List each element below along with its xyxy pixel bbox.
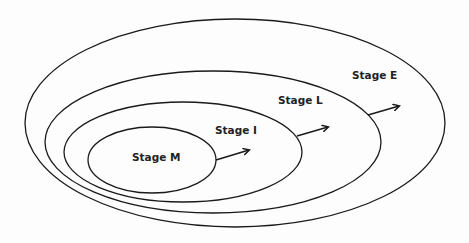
nested-stage-diagram: Stage M Stage I Stage L Stage E (0, 0, 469, 243)
ellipse-stage-l (45, 71, 381, 213)
label-stage-i: Stage I (215, 124, 257, 136)
arrow-icon (297, 127, 328, 136)
ellipse-stage-i (64, 102, 302, 202)
arrow-icon (368, 106, 399, 115)
ellipse-stage-e (25, 19, 445, 227)
diagram-canvas: Stage M Stage I Stage L Stage E (0, 0, 469, 243)
label-stage-l: Stage L (278, 94, 323, 106)
label-stage-e: Stage E (352, 69, 397, 81)
arrow-icon (216, 150, 249, 160)
label-stage-m: Stage M (132, 151, 180, 163)
